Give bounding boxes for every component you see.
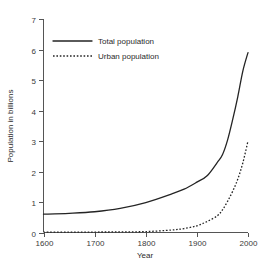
y-tick-labels: 01234567 <box>32 16 37 239</box>
y-tick-label: 5 <box>32 77 37 86</box>
population-line-chart: 01234567 16001700180019002000 Year Popul… <box>0 0 268 269</box>
series-urban-population <box>44 141 249 232</box>
x-axis-title: Year <box>137 251 154 260</box>
y-tick-label: 7 <box>32 16 37 25</box>
x-tick-label: 2000 <box>240 239 258 248</box>
chart-canvas: 01234567 16001700180019002000 Year Popul… <box>0 0 268 269</box>
y-axis <box>39 19 44 234</box>
y-tick-label: 6 <box>32 47 37 56</box>
y-tick-label: 2 <box>32 169 37 178</box>
legend-label-urban-population: Urban population <box>98 52 159 61</box>
y-tick-label: 0 <box>32 230 37 239</box>
y-tick-marks <box>39 20 44 234</box>
x-tick-label: 1700 <box>87 239 105 248</box>
series-total-population <box>44 53 249 215</box>
x-tick-labels: 16001700180019002000 <box>36 239 258 248</box>
x-tick-marks <box>45 233 249 238</box>
series-layer <box>44 53 249 233</box>
legend: Total population Urban population <box>53 37 159 61</box>
y-tick-label: 4 <box>32 108 37 117</box>
x-axis <box>44 233 249 238</box>
y-axis-title: Population in billions <box>6 90 15 163</box>
y-tick-label: 3 <box>32 138 37 147</box>
x-tick-label: 1900 <box>189 239 207 248</box>
legend-label-total-population: Total population <box>98 37 154 46</box>
x-tick-label: 1800 <box>138 239 156 248</box>
x-tick-label: 1600 <box>36 239 54 248</box>
y-tick-label: 1 <box>32 199 37 208</box>
